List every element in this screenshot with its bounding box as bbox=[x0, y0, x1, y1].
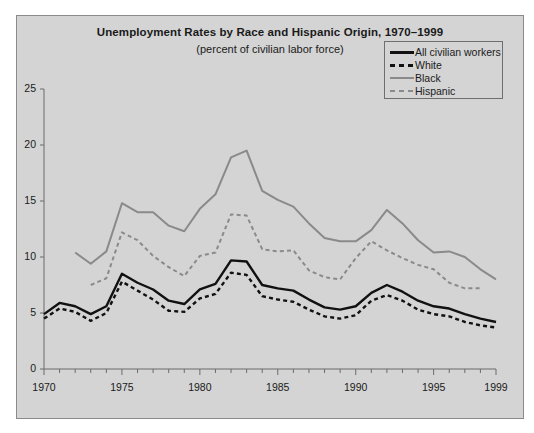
x-tick-label: 1990 bbox=[336, 381, 376, 393]
x-tick-label: 1999 bbox=[476, 381, 516, 393]
x-tick-label: 1995 bbox=[414, 381, 454, 393]
legend-item: All civilian workers bbox=[389, 45, 498, 58]
x-tick-label: 1975 bbox=[102, 381, 142, 393]
legend-item: Hispanic bbox=[389, 84, 498, 97]
x-tick-label: 1970 bbox=[24, 381, 64, 393]
series-line-hispanic bbox=[91, 214, 481, 288]
legend-label-all-civilian-workers: All civilian workers bbox=[415, 46, 501, 58]
legend-swatch-hispanic bbox=[389, 85, 415, 96]
y-tick-marks bbox=[40, 89, 44, 369]
y-tick-label: 20 bbox=[14, 138, 36, 150]
legend-swatch-black bbox=[389, 72, 415, 83]
y-tick-label: 5 bbox=[14, 306, 36, 318]
legend-label-hispanic: Hispanic bbox=[415, 85, 455, 97]
chart-figure: Unemployment Rates by Race and Hispanic … bbox=[16, 15, 524, 419]
chart-legend: All civilian workers White Black Hispani… bbox=[384, 41, 503, 99]
x-tick-label: 1980 bbox=[180, 381, 220, 393]
x-tick-marks bbox=[44, 369, 496, 375]
legend-swatch-all-civilian-workers bbox=[389, 46, 415, 57]
series-line-black bbox=[75, 151, 496, 280]
y-tick-label: 15 bbox=[14, 194, 36, 206]
y-tick-label: 25 bbox=[14, 82, 36, 94]
chart-title: Unemployment Rates by Race and Hispanic … bbox=[17, 26, 523, 38]
data-series-group bbox=[44, 151, 496, 328]
plot-svg bbox=[44, 89, 496, 369]
x-tick-label: 1985 bbox=[258, 381, 298, 393]
legend-label-white: White bbox=[415, 59, 442, 71]
legend-item: Black bbox=[389, 71, 498, 84]
plot-area: 0510152025 1970197519801985199019951999 bbox=[44, 89, 496, 369]
y-tick-label: 0 bbox=[14, 362, 36, 374]
legend-swatch-white bbox=[389, 59, 415, 70]
y-tick-label: 10 bbox=[14, 250, 36, 262]
axes bbox=[44, 89, 496, 369]
series-line-white bbox=[44, 273, 496, 328]
legend-item: White bbox=[389, 58, 498, 71]
legend-label-black: Black bbox=[415, 72, 441, 84]
